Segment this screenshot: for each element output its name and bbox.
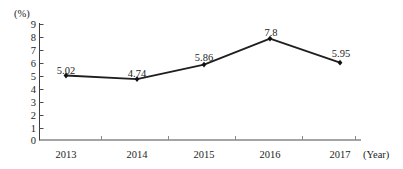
marker-2015: [202, 62, 207, 68]
marker-2017: [338, 60, 343, 66]
line-chart: (%) (Year) 9 8 7 6 5 4 3 2 1 0 2013 2014…: [0, 0, 403, 169]
y-axis-ticks: [40, 25, 44, 129]
series-markers: [64, 36, 343, 82]
chart-canvas: [0, 0, 403, 169]
marker-2016: [268, 36, 273, 42]
marker-2013: [64, 73, 69, 79]
x-axis-ticks: [102, 136, 356, 140]
series-line: [66, 39, 340, 80]
marker-2014: [135, 76, 140, 82]
